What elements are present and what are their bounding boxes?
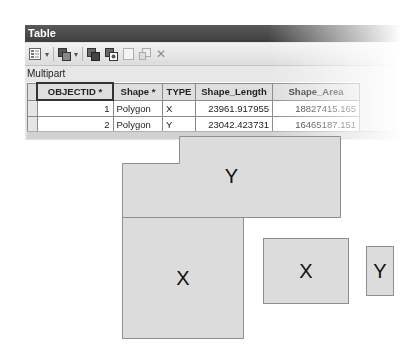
column-header-shape-area[interactable]: Shape_Area xyxy=(273,83,360,100)
delete-selected-icon[interactable]: ✕ xyxy=(155,47,167,61)
cell-shape-length[interactable]: 23961.917955 xyxy=(196,100,273,117)
polygon-label: Y xyxy=(122,156,341,196)
column-header-objectid[interactable]: OBJECTID * xyxy=(37,83,113,100)
zoom-to-selected-icon[interactable] xyxy=(138,47,151,61)
select-by-attributes-icon[interactable] xyxy=(86,47,100,61)
polygon-y-large[interactable]: Y xyxy=(122,136,341,218)
cell-type[interactable]: X xyxy=(163,100,196,117)
attribute-grid: OBJECTID * Shape * TYPE Shape_Length Sha… xyxy=(27,82,360,133)
related-tables-dropdown-icon[interactable]: ▾ xyxy=(72,47,79,61)
polygon-label: X xyxy=(299,260,312,283)
corner-cell[interactable] xyxy=(28,83,38,100)
related-tables-icon[interactable] xyxy=(57,47,71,61)
table-toolbar: ▾ ▾ ✕ xyxy=(25,43,417,66)
toolbar-separator xyxy=(82,47,83,61)
switch-selection-icon[interactable] xyxy=(104,47,118,61)
polygon-x-large[interactable]: X xyxy=(122,217,244,339)
window-title: Table xyxy=(25,25,417,42)
header-row: OBJECTID * Shape * TYPE Shape_Length Sha… xyxy=(28,83,360,100)
table-options-dropdown-icon[interactable]: ▾ xyxy=(43,47,50,61)
layer-name-label: Multipart xyxy=(25,66,417,81)
table-row[interactable]: 1 Polygon X 23961.917955 18827415.165 xyxy=(28,100,360,117)
table-options-icon[interactable] xyxy=(28,47,42,61)
polygon-y-small[interactable]: Y xyxy=(366,246,394,296)
cell-shape-area[interactable]: 18827415.165 xyxy=(273,100,360,117)
toolbar-separator xyxy=(53,47,54,61)
clear-selection-icon[interactable] xyxy=(122,47,135,61)
polygon-label: X xyxy=(176,267,189,290)
column-header-shape[interactable]: Shape * xyxy=(113,83,163,100)
cell-shape[interactable]: Polygon xyxy=(113,100,163,117)
cell-objectid[interactable]: 1 xyxy=(37,100,113,117)
polygon-x-medium[interactable]: X xyxy=(263,238,349,304)
column-header-type[interactable]: TYPE xyxy=(163,83,196,100)
attribute-table-window: Table ▾ ▾ ✕ Multipart OBJECTID * Shape xyxy=(25,25,417,140)
row-selector[interactable] xyxy=(28,100,38,117)
column-header-shape-length[interactable]: Shape_Length xyxy=(196,83,273,100)
polygon-label: Y xyxy=(373,260,386,283)
